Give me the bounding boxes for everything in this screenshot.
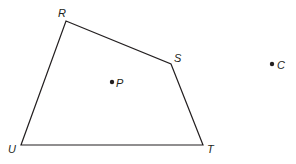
diagram-canvas: R S T U P C [0, 0, 296, 164]
vertex-label-t: T [207, 143, 215, 155]
vertex-label-r: R [58, 7, 66, 19]
vertex-label-s: S [174, 52, 182, 64]
point-label-c: C [277, 59, 285, 71]
point-c-dot [270, 62, 274, 66]
point-label-p: P [116, 77, 124, 89]
point-p-dot [110, 80, 114, 84]
geometry-diagram: R S T U P C [0, 0, 296, 164]
vertex-label-u: U [8, 143, 16, 155]
